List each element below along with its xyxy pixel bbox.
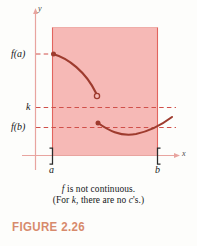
filled-dot-fa [51, 52, 56, 57]
shaded-region [52, 27, 158, 155]
y-value-label-k: k [26, 101, 30, 112]
filled-dot-branch2-start [96, 121, 101, 126]
figure-plot [0, 0, 197, 246]
figure-caption: f is not continuous. (For k, there are n… [0, 184, 197, 206]
caption-line-2-pre: (For [53, 195, 72, 205]
y-value-label-fb: f(b) [11, 121, 25, 132]
x-axis-arrow-icon [174, 153, 180, 158]
caption-line-2-post: 's.) [133, 195, 144, 205]
caption-line-1: f is not continuous. [0, 184, 197, 195]
x-tick-label-a: a [49, 164, 54, 175]
y-value-label-fa: f(a) [11, 48, 25, 59]
y-axis-label: y [38, 4, 42, 13]
caption-line-2-mid: , there are no [76, 195, 129, 205]
figure-number-label: FIGURE 2.26 [12, 220, 85, 234]
x-axis-label: x [182, 149, 186, 158]
caption-line-1-text: is not continuous. [65, 184, 136, 194]
figure-container: y x f(a) k f(b) a b f is not continuous.… [0, 0, 197, 246]
x-tick-label-b: b [155, 164, 160, 175]
caption-line-2: (For k, there are no c's.) [0, 195, 197, 206]
open-circle-discontinuity [94, 93, 99, 98]
